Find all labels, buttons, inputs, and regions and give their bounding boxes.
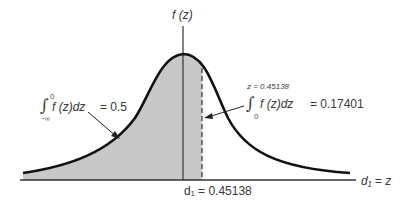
integrand-text: f (z)dz [260, 97, 293, 111]
integral-sign: ∫ [40, 95, 49, 115]
integral-sign: ∫ [246, 93, 255, 113]
y-axis-label: f (z) [172, 8, 193, 22]
integral-upper-limit: z = 0.45138 [247, 82, 289, 91]
right-arrow-head [204, 113, 213, 119]
left-integral-annotation: ∫ 0 −∞ f (z)dz = 0.5 [38, 91, 158, 121]
x-axis-label: d₁ = z [361, 174, 391, 188]
integral-lower-limit: 0 [254, 112, 258, 121]
area-value: = 0.17401 [310, 97, 364, 111]
d1-value-label: d₁ = 0.45138 [184, 184, 252, 198]
area-value: = 0.5 [100, 100, 127, 114]
integrand-text: f (z)dz [52, 100, 85, 114]
right-integral-annotation: z = 0.45138 ∫ 0 f (z)dz = 0.17401 [244, 82, 374, 118]
integral-lower-limit: −∞ [41, 115, 50, 122]
